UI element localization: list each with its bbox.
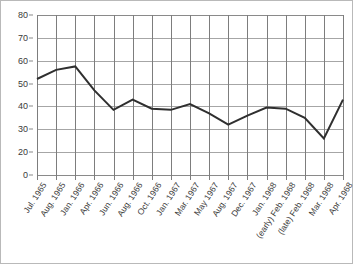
x-tick-mark-7 xyxy=(171,175,172,180)
y-tick-mark-60 xyxy=(29,60,33,61)
x-tick-mark-15 xyxy=(324,175,325,180)
y-tick-label-60: 60 xyxy=(18,56,28,65)
x-tick-mark-2 xyxy=(75,175,76,180)
y-axis: 020304050607080 xyxy=(1,15,33,175)
y-tick-mark-20 xyxy=(29,152,33,153)
x-tick-mark-8 xyxy=(190,175,191,180)
y-tick-label-50: 50 xyxy=(18,79,28,88)
series-line-0 xyxy=(37,66,343,138)
chart-container: 020304050607080 Jul. 1965Aug. 1965Jan. 1… xyxy=(0,0,353,264)
data-series-line xyxy=(37,15,343,175)
x-tick-mark-4 xyxy=(114,175,115,180)
x-tick-mark-13 xyxy=(286,175,287,180)
x-tick-mark-11 xyxy=(247,175,248,180)
y-tick-label-40: 40 xyxy=(18,102,28,111)
x-tick-mark-9 xyxy=(209,175,210,180)
x-axis-ticks xyxy=(37,175,343,180)
y-tick-label-0: 0 xyxy=(23,171,28,180)
y-tick-mark-40 xyxy=(29,106,33,107)
x-tick-mark-0 xyxy=(37,175,38,180)
y-tick-label-30: 30 xyxy=(18,125,28,134)
y-tick-mark-0 xyxy=(29,175,33,176)
x-tick-mark-12 xyxy=(267,175,268,180)
x-axis: Jul. 1965Aug. 1965Jan. 1966Apr. 1966Jun.… xyxy=(37,181,343,251)
y-tick-mark-80 xyxy=(29,15,33,16)
x-tick-mark-10 xyxy=(228,175,229,180)
x-tick-mark-6 xyxy=(152,175,153,180)
x-tick-mark-1 xyxy=(56,175,57,180)
x-tick-mark-14 xyxy=(305,175,306,180)
y-tick-mark-70 xyxy=(29,37,33,38)
plot-area xyxy=(37,15,343,175)
y-tick-label-80: 80 xyxy=(18,11,28,20)
y-tick-mark-50 xyxy=(29,83,33,84)
x-tick-mark-5 xyxy=(133,175,134,180)
x-tick-mark-3 xyxy=(94,175,95,180)
y-tick-label-20: 20 xyxy=(18,148,28,157)
x-tick-mark-16 xyxy=(343,175,344,180)
y-tick-label-70: 70 xyxy=(18,33,28,42)
y-tick-mark-30 xyxy=(29,129,33,130)
